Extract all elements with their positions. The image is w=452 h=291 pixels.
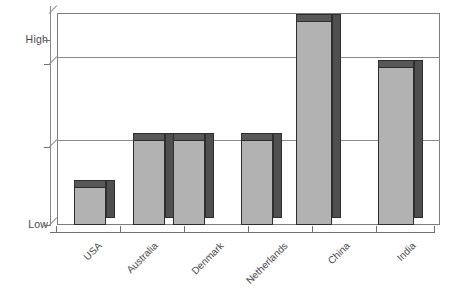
bar-usa-side: [106, 180, 115, 218]
x-axis-line: [50, 232, 435, 233]
bar-china: [296, 13, 332, 225]
bar-india: [378, 13, 414, 225]
bar-usa-front: [74, 187, 106, 225]
x-axis-label-denmark: Denmark: [171, 240, 225, 291]
x-axis-tick-6: [434, 226, 435, 233]
bar-china-side: [332, 14, 341, 218]
bar-denmark-side: [205, 133, 214, 218]
x-axis-tick-2: [184, 226, 185, 233]
bar-india-front: [378, 67, 414, 225]
bar-usa: [74, 13, 106, 225]
x-axis-label-china: China: [307, 240, 352, 285]
x-axis-label-usa: USA: [62, 240, 104, 282]
bar-denmark-front: [173, 140, 205, 225]
bar-india-side: [414, 60, 423, 218]
x-axis-tick-3: [248, 226, 249, 233]
x-axis-tick-4: [312, 226, 313, 233]
x-axis-label-india: India: [377, 240, 417, 280]
bar-denmark: [173, 13, 205, 225]
bar-china-front: [296, 21, 332, 225]
x-axis-tick-1: [120, 226, 121, 233]
y-axis-label-low: Low: [6, 218, 48, 230]
x-axis-tick-0: [56, 226, 57, 233]
bar-netherlands-side: [273, 133, 282, 218]
bar-australia: [133, 13, 165, 225]
bar-australia-front: [133, 140, 165, 225]
x-axis-label-australia: Australia: [103, 240, 160, 291]
x-axis-tick-5: [376, 226, 377, 233]
bar-chart: High Low: [0, 0, 452, 291]
x-axis-label-netherlands: Netherlands: [224, 240, 290, 291]
bar-australia-side: [165, 133, 174, 218]
bar-netherlands-front: [241, 140, 273, 225]
bar-netherlands: [241, 13, 273, 225]
y-axis-label-high: High: [6, 33, 48, 45]
